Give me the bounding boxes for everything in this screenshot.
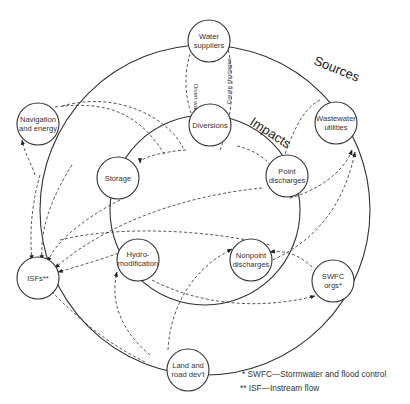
svg-text:orgs*: orgs* — [324, 281, 342, 290]
svg-text:Water: Water — [199, 32, 219, 41]
svg-text:modification: modification — [118, 259, 159, 268]
node-navigation-energy[interactable]: Navigation and energy — [17, 103, 59, 145]
svg-text:Storage: Storage — [105, 174, 132, 183]
svg-text:ISFs**: ISFs** — [27, 274, 49, 283]
node-diversions[interactable]: Diversions — [189, 104, 231, 146]
sources-label: Sources — [312, 53, 362, 85]
svg-text:and energy: and energy — [19, 124, 57, 133]
svg-text:SWFC: SWFC — [322, 272, 345, 281]
node-nonpoint-discharges[interactable]: Nonpoint discharges — [230, 239, 272, 281]
svg-text:road dev't: road dev't — [171, 370, 205, 379]
svg-text:Navigation: Navigation — [20, 115, 56, 124]
node-point-discharges[interactable]: Point discharges — [266, 155, 308, 197]
node-water-suppliers[interactable]: Water suppliers — [188, 20, 230, 62]
svg-text:Diversions: Diversions — [192, 121, 228, 130]
svg-text:Wastewater: Wastewater — [316, 114, 356, 123]
svg-text:discharges: discharges — [233, 260, 270, 269]
svg-text:Point: Point — [278, 167, 296, 176]
legend-isf: ** ISF—Instream flow — [240, 383, 319, 393]
diagram-canvas: Sources Impacts — [0, 0, 410, 404]
node-hydromodification[interactable]: Hydro- modification — [117, 239, 159, 281]
svg-text:Nonpoint: Nonpoint — [236, 251, 267, 260]
node-isfs[interactable]: ISFs** — [17, 257, 59, 299]
create-shortages-label: Create shortages — [226, 58, 232, 104]
legend-swfc: * SWFC—Stormwater and flood control — [242, 369, 386, 379]
sources-ring — [40, 45, 370, 375]
node-land-road-devt[interactable]: Land and road dev't — [167, 349, 209, 391]
node-swfc-orgs[interactable]: SWFC orgs* — [312, 260, 354, 302]
svg-text:utilities: utilities — [324, 123, 347, 132]
svg-text:discharges: discharges — [269, 176, 306, 185]
relationship-edges — [22, 44, 355, 362]
svg-text:Land and: Land and — [172, 361, 204, 370]
svg-text:suppliers: suppliers — [194, 41, 225, 50]
svg-text:Hydro-: Hydro- — [127, 250, 150, 259]
impacts-label: Impacts — [247, 114, 294, 152]
node-wastewater-utilities[interactable]: Wastewater utilities — [315, 102, 357, 144]
node-storage[interactable]: Storage — [97, 157, 139, 199]
